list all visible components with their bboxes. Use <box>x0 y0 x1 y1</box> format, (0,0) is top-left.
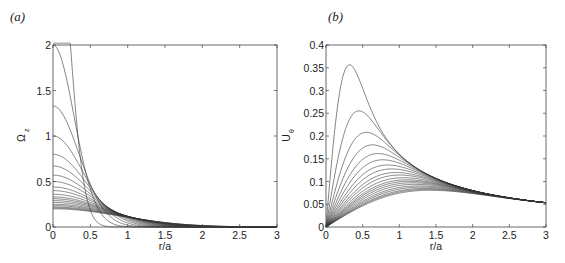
svg-text:U: U <box>280 134 292 142</box>
profile-curve <box>326 165 546 227</box>
panel-a-ticks: 00.511.522.5300.511.52 <box>36 39 280 241</box>
panel-a-xlabel: r/a <box>159 240 171 252</box>
svg-text:θ: θ <box>288 129 295 133</box>
y-tick-label: 0 <box>45 221 51 233</box>
y-tick-label: 0 <box>318 221 324 233</box>
profile-curve <box>326 181 546 227</box>
x-tick-label: 2.5 <box>502 229 517 241</box>
profile-curve <box>326 160 546 227</box>
y-tick-label: 0.5 <box>36 176 51 188</box>
profile-curve <box>53 182 277 228</box>
svg-text:z: z <box>23 128 30 132</box>
figure: (a) 00.511.522.5300.511.52 r/a Ω z (b) 0… <box>0 0 565 263</box>
panel-b-xlabel: r/a <box>430 240 442 252</box>
panel-a-axes-box <box>53 45 277 227</box>
profile-curve <box>53 45 277 227</box>
profile-curve <box>326 178 546 227</box>
panel-b-ticks: 00.511.522.5300.050.10.150.20.250.30.350… <box>304 39 550 241</box>
panel-b-ylabel: U θ <box>280 129 295 142</box>
x-tick-label: 0.5 <box>355 229 370 241</box>
svg-text:Ω: Ω <box>15 134 27 142</box>
y-tick-label: 0.05 <box>304 198 325 210</box>
y-tick-label: 0.25 <box>304 107 325 119</box>
x-tick-label: 2 <box>199 229 205 241</box>
profile-curve <box>326 111 546 227</box>
x-tick-label: 2.5 <box>232 229 247 241</box>
y-tick-label: 0.3 <box>309 85 324 97</box>
profile-curve <box>326 189 546 227</box>
panel-b: (b) 00.511.522.5300.050.10.150.20.250.30… <box>280 9 549 252</box>
x-tick-label: 2 <box>470 229 476 241</box>
y-tick-label: 0.2 <box>309 130 324 142</box>
x-tick-label: 1 <box>125 229 131 241</box>
y-tick-label: 0.4 <box>309 39 324 51</box>
profile-curve <box>326 190 546 227</box>
panel-a: (a) 00.511.522.5300.511.52 r/a Ω z <box>10 9 280 252</box>
x-tick-label: 3 <box>274 229 280 241</box>
x-tick-label: 1 <box>396 229 402 241</box>
x-tick-label: 3 <box>543 229 549 241</box>
panel-b-label: (b) <box>328 9 343 24</box>
y-tick-label: 2 <box>45 39 51 51</box>
profile-curve <box>53 43 277 227</box>
profile-curve <box>53 136 277 227</box>
panel-a-ylabel: Ω z <box>15 128 30 142</box>
profile-curve <box>53 194 277 227</box>
y-tick-label: 0.15 <box>304 153 325 165</box>
y-tick-label: 1 <box>45 130 51 142</box>
panel-a-label: (a) <box>10 9 25 24</box>
profile-curve <box>326 186 546 227</box>
panel-b-curves <box>326 65 546 227</box>
x-tick-label: 0.5 <box>83 229 98 241</box>
profile-curve <box>53 187 277 227</box>
y-tick-label: 1.5 <box>36 85 51 97</box>
profile-curve <box>326 65 546 227</box>
y-tick-label: 0.35 <box>304 62 325 74</box>
y-tick-label: 0.1 <box>309 176 324 188</box>
panel-a-curves <box>53 43 277 227</box>
